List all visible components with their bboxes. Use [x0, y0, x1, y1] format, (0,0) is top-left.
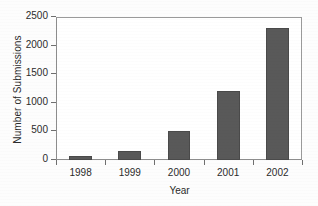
bar [69, 156, 92, 160]
y-tick-mark [51, 130, 56, 131]
x-tick-mark [302, 160, 303, 165]
y-tick-label: 1000 [26, 96, 48, 107]
x-tick-mark [204, 160, 205, 165]
x-tick-mark [105, 160, 106, 165]
y-tick-mark [51, 16, 56, 17]
y-tick-mark [51, 102, 56, 103]
x-tick-label: 1999 [105, 167, 154, 178]
bar [266, 28, 289, 160]
x-axis-title: Year [56, 185, 303, 196]
y-tick-mark [51, 45, 56, 46]
y-tick-label: 500 [31, 124, 48, 135]
x-tick-label: 1998 [56, 167, 105, 178]
x-tick-label: 2000 [154, 167, 203, 178]
x-tick-label: 2002 [253, 167, 302, 178]
y-tick-label: 1500 [26, 67, 48, 78]
x-tick-mark [253, 160, 254, 165]
x-tick-mark [154, 160, 155, 165]
y-tick-mark [51, 73, 56, 74]
y-tick-label: 2500 [26, 10, 48, 21]
bar [168, 131, 191, 160]
x-tick-mark [56, 160, 57, 165]
y-tick-label: 0 [42, 153, 48, 164]
y-axis-title: Number of Submissions [12, 15, 23, 165]
bar-chart-figure: Number of Submissions 050010001500200025… [0, 0, 318, 206]
bar [217, 91, 240, 160]
y-tick-label: 2000 [26, 39, 48, 50]
x-tick-label: 2001 [204, 167, 253, 178]
bar [118, 151, 141, 160]
